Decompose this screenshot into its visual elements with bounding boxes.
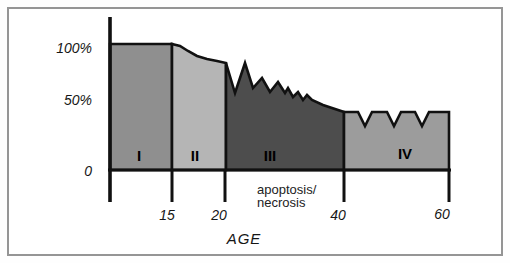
x-tick-label-15: 15 (147, 208, 187, 222)
x-axis-title: AGE (214, 231, 274, 246)
y-tick-label-0: 0 (46, 164, 92, 178)
figure-canvas: 100% 50% 0 15 20 40 60 AGE apoptosis/ ne… (0, 0, 510, 263)
phase-label-3: III (255, 148, 285, 164)
x-tick-label-60: 60 (422, 207, 462, 221)
x-tick-label-20: 20 (199, 208, 239, 222)
phase-label-1: I (124, 148, 154, 164)
annotation-necrosis: necrosis (257, 196, 305, 209)
phase-label-2: II (180, 148, 210, 164)
y-tick-label-100: 100% (46, 41, 92, 55)
y-tick-label-50: 50% (46, 93, 92, 107)
phase-label-4: IV (390, 146, 420, 162)
x-tick-label-40: 40 (318, 208, 358, 222)
